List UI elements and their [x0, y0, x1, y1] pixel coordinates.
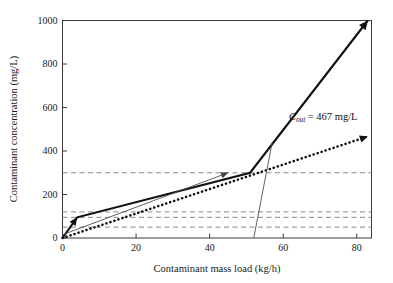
chart-container: 02004006008001000 020406080 Contaminant … — [0, 0, 393, 283]
x-tick-label-0: 0 — [60, 242, 65, 253]
y-tick-label-1000: 1000 — [38, 15, 58, 26]
y-tick-label-600: 600 — [43, 102, 58, 113]
x-tick-label-80: 80 — [352, 242, 362, 253]
x-axis-title: Contaminant mass load (kg/h) — [154, 263, 281, 275]
x-tick-label-20: 20 — [131, 242, 141, 253]
y-tick-label-0: 0 — [53, 232, 58, 243]
y-axis-title: Contaminant concentration (mg/L) — [8, 55, 20, 202]
x-tick-label-40: 40 — [205, 242, 215, 253]
y-tick-label-200: 200 — [43, 189, 58, 200]
chart-background — [0, 0, 393, 283]
x-tick-label-60: 60 — [278, 242, 288, 253]
contaminant-mass-load-chart: 02004006008001000 020406080 Contaminant … — [0, 0, 393, 283]
y-tick-label-400: 400 — [43, 145, 58, 156]
y-tick-label-800: 800 — [43, 58, 58, 69]
cout-value: = 467 mg/L — [305, 111, 357, 122]
